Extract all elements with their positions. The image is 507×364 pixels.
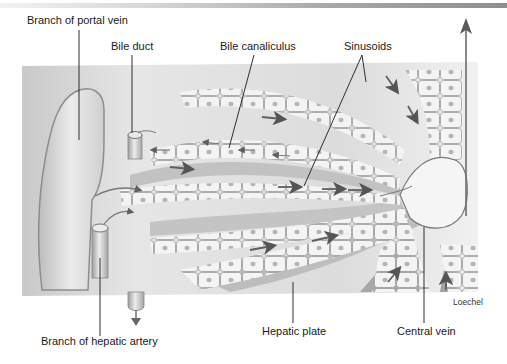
- label-sinusoids: Sinusoids: [344, 40, 392, 53]
- label-bile-canaliculus: Bile canaliculus: [220, 40, 296, 53]
- label-central-vein: Central vein: [397, 325, 456, 338]
- label-hepatic-plate: Hepatic plate: [262, 325, 326, 338]
- artist-credit: Loechel: [453, 297, 483, 307]
- bile-drain: [128, 292, 144, 326]
- liver-lobule-illustration: [0, 0, 507, 364]
- drain-arrow-icon: [131, 318, 141, 326]
- label-portal-vein: Branch of portal vein: [27, 14, 128, 27]
- label-hepatic-artery: Branch of hepatic artery: [41, 335, 158, 348]
- label-bile-duct: Bile duct: [111, 40, 153, 53]
